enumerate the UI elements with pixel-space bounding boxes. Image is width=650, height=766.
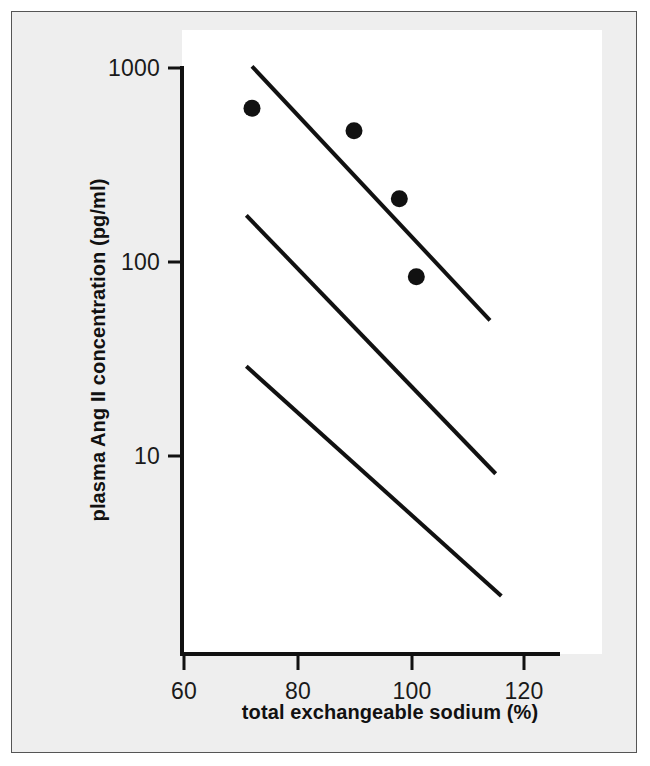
y-tick-label-1000: 1000 (100, 55, 160, 82)
reference-lines (246, 66, 501, 596)
x-axis-ticks (184, 654, 524, 670)
data-points (244, 100, 425, 285)
y-axis-title: plasma Ang II concentration (pg/ml) (87, 179, 110, 522)
reference-line-2 (246, 215, 495, 473)
reference-line-1 (252, 66, 490, 320)
data-point-3 (391, 190, 408, 207)
data-point-1 (244, 100, 261, 117)
data-point-4 (408, 268, 425, 285)
x-tick-label-60: 60 (171, 678, 197, 705)
data-point-2 (346, 122, 363, 139)
axes (180, 66, 560, 656)
reference-line-3 (246, 366, 501, 596)
figure-root: 1000 100 10 60 80 100 120 total exchange… (0, 0, 650, 766)
y-axis-ticks (168, 68, 182, 456)
x-axis-title: total exchangeable sodium (%) (242, 701, 538, 724)
